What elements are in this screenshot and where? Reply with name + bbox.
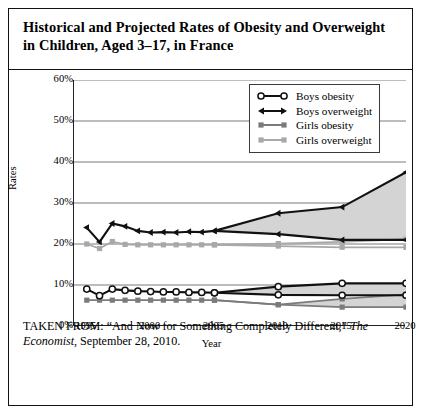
y-axis-tick-label: 60% (27, 73, 73, 84)
legend-label: Girls obesity (296, 119, 354, 131)
legend-marker-icon (256, 105, 289, 117)
y-axis-tick-label: 50% (27, 114, 73, 125)
figure-container: Historical and Projected Rates of Obesit… (8, 8, 413, 406)
legend-item: Boys overweight (256, 104, 372, 119)
chart-legend: Boys obesityBoys overweightGirls obesity… (249, 84, 380, 153)
legend-item: Girls obesity (256, 118, 372, 133)
legend-marker-icon (256, 134, 289, 146)
legend-label: Boys obesity (296, 90, 354, 102)
legend-marker-icon (256, 90, 289, 102)
legend-marker-icon (256, 119, 289, 131)
y-axis-tick-label: 10% (27, 278, 73, 289)
legend-label: Girls overweight (296, 134, 372, 146)
caption-text-lead: TAKEN FROM: “And Now for Something Compl… (23, 319, 350, 333)
legend-item: Boys obesity (256, 89, 372, 104)
caption-text-tail: , September 28, 2010. (74, 334, 180, 348)
source-caption: TAKEN FROM: “And Now for Something Compl… (17, 319, 406, 349)
y-axis-label: Rates (7, 167, 18, 191)
chart-area: Rates 0%10%20%30%40%50%60% 1995200020052… (9, 70, 414, 360)
y-axis-tick-label: 20% (27, 237, 73, 248)
title-area: Historical and Projected Rates of Obesit… (9, 9, 412, 62)
page-title: Historical and Projected Rates of Obesit… (23, 19, 398, 54)
legend-label: Boys overweight (296, 105, 372, 117)
legend-item: Girls overweight (256, 133, 372, 148)
y-axis-tick-label: 40% (27, 155, 73, 166)
y-axis-tick-label: 30% (27, 196, 73, 207)
